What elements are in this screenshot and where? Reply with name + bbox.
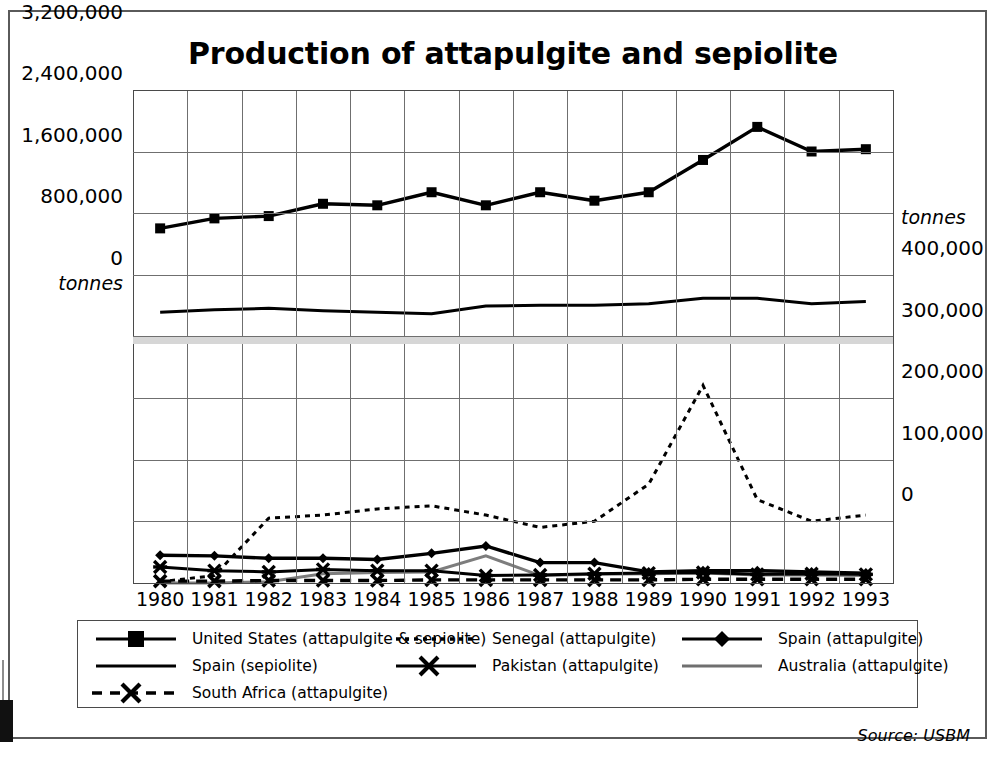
legend-item[interactable]: Senegal (attapulgite) bbox=[388, 627, 656, 651]
x-tick-1993: 1993 bbox=[839, 588, 893, 610]
marker-diamond bbox=[481, 541, 491, 551]
cross-line-icon bbox=[388, 654, 484, 678]
square-line-icon bbox=[88, 627, 184, 651]
gridline-horizontal bbox=[133, 213, 893, 214]
gridline-horizontal bbox=[133, 398, 893, 399]
legend-label: Spain (attapulgite) bbox=[770, 630, 923, 648]
right-tick-200000: 200,000 bbox=[901, 359, 984, 383]
page-edge-line bbox=[2, 660, 4, 705]
left-tick-3200000: 3,200,000 bbox=[21, 0, 123, 24]
x-tick-1982: 1982 bbox=[242, 588, 296, 610]
marker-square bbox=[644, 187, 654, 197]
left-tick-0: 0 bbox=[110, 246, 123, 270]
marker-diamond bbox=[535, 558, 545, 568]
legend-label: Pakistan (attapulgite) bbox=[484, 657, 659, 675]
page-edge-artifact bbox=[0, 700, 13, 742]
right-tick-100000: 100,000 bbox=[901, 421, 984, 445]
source-note: Source: USBM bbox=[690, 726, 970, 745]
x-tick-1984: 1984 bbox=[350, 588, 404, 610]
marker-diamond bbox=[427, 548, 437, 558]
right-tick-300000: 300,000 bbox=[901, 298, 984, 322]
chart-legend: United States (attapulgite & sepiolite)S… bbox=[77, 620, 918, 708]
x-tick-1992: 1992 bbox=[784, 588, 838, 610]
gridline-horizontal bbox=[133, 583, 893, 584]
right-axis-unit: tonnes bbox=[901, 206, 966, 228]
legend-item[interactable]: Australia (attapulgite) bbox=[674, 654, 948, 678]
x-tick-1981: 1981 bbox=[187, 588, 241, 610]
x-tick-1989: 1989 bbox=[622, 588, 676, 610]
legend-label: Australia (attapulgite) bbox=[770, 657, 948, 675]
marker-diamond bbox=[264, 553, 274, 563]
x-tick-1986: 1986 bbox=[459, 588, 513, 610]
x-tick-1987: 1987 bbox=[513, 588, 567, 610]
left-tick-800000: 800,000 bbox=[40, 184, 123, 208]
marker-square bbox=[535, 187, 545, 197]
gridline-horizontal bbox=[133, 460, 893, 461]
x-tick-1988: 1988 bbox=[567, 588, 621, 610]
legend-label: Senegal (attapulgite) bbox=[484, 630, 656, 648]
marker-diamond bbox=[209, 551, 219, 561]
x-axis: 1980198119821983198419851986198719881989… bbox=[133, 588, 893, 614]
legend-label: South Africa (attapulgite) bbox=[184, 684, 388, 702]
marker-diamond bbox=[372, 555, 382, 565]
gray-line-icon bbox=[674, 654, 770, 678]
right-tick-400000: 400,000 bbox=[901, 236, 984, 260]
x-tick-1990: 1990 bbox=[676, 588, 730, 610]
left-tick-1600000: 1,600,000 bbox=[21, 123, 123, 147]
marker-cross bbox=[153, 561, 167, 573]
legend-marker bbox=[674, 654, 770, 678]
marker-square bbox=[698, 155, 708, 165]
plot-area bbox=[133, 90, 893, 584]
chart-title: Production of attapulgite and sepiolite bbox=[133, 36, 893, 78]
legend-item[interactable]: Spain (sepiolite) bbox=[88, 654, 318, 678]
marker-square bbox=[318, 199, 328, 209]
x-tick-1985: 1985 bbox=[404, 588, 458, 610]
gridline-horizontal bbox=[133, 90, 893, 91]
left-axis-unit: tonnes bbox=[58, 272, 123, 294]
legend-marker bbox=[388, 627, 484, 651]
marker-square bbox=[861, 144, 871, 154]
gridline-horizontal bbox=[133, 521, 893, 522]
dotted-line-icon bbox=[388, 627, 484, 651]
marker-square bbox=[209, 213, 219, 223]
legend-marker bbox=[88, 627, 184, 651]
legend-marker bbox=[88, 654, 184, 678]
legend-item[interactable]: Spain (attapulgite) bbox=[674, 627, 923, 651]
x-tick-1991: 1991 bbox=[730, 588, 784, 610]
legend-marker bbox=[674, 627, 770, 651]
axis-divider bbox=[133, 337, 893, 344]
left-tick-2400000: 2,400,000 bbox=[21, 61, 123, 85]
marker-diamond bbox=[318, 553, 328, 563]
dashed-cross-icon bbox=[88, 681, 184, 705]
x-tick-1980: 1980 bbox=[133, 588, 187, 610]
marker-square bbox=[155, 223, 165, 233]
marker-diamond bbox=[155, 550, 165, 560]
legend-item[interactable]: Pakistan (attapulgite) bbox=[388, 654, 659, 678]
marker-square bbox=[372, 200, 382, 210]
legend-marker bbox=[88, 681, 184, 705]
diamond-line-icon bbox=[674, 627, 770, 651]
gridline-horizontal bbox=[133, 275, 893, 276]
solid-line-icon bbox=[88, 654, 184, 678]
marker-square bbox=[589, 196, 599, 206]
x-tick-1983: 1983 bbox=[296, 588, 350, 610]
legend-label: Spain (sepiolite) bbox=[184, 657, 318, 675]
right-tick-0: 0 bbox=[901, 482, 914, 506]
marker-square bbox=[752, 122, 762, 132]
legend-marker bbox=[388, 654, 484, 678]
marker-diamond bbox=[589, 558, 599, 568]
legend-item[interactable]: South Africa (attapulgite) bbox=[88, 681, 388, 705]
gridline-vertical bbox=[893, 90, 894, 584]
marker-square bbox=[481, 200, 491, 210]
gridline-horizontal bbox=[133, 152, 893, 153]
marker-square bbox=[427, 187, 437, 197]
